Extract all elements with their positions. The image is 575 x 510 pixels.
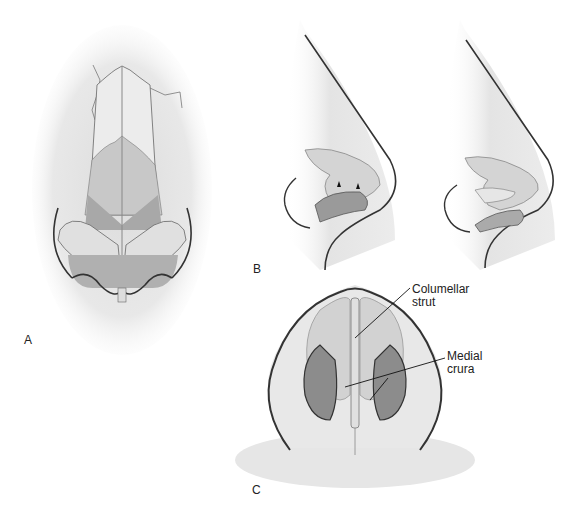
panel-a-drawing bbox=[32, 25, 212, 355]
panel-label-c: C bbox=[252, 483, 261, 497]
annotation-columellar-strut: Columellar strut bbox=[412, 283, 469, 309]
annotation-line2: strut bbox=[412, 296, 469, 309]
panel-label-a: A bbox=[24, 333, 32, 347]
panel-label-b: B bbox=[253, 262, 261, 276]
panel-b-drawing-before bbox=[284, 20, 395, 270]
panel-b-drawing-after bbox=[445, 20, 556, 270]
panel-c-drawing bbox=[235, 285, 475, 488]
annotation-medial-crura: Medial crura bbox=[447, 350, 482, 376]
annotation-line2: crura bbox=[447, 363, 482, 376]
illustration bbox=[0, 0, 575, 510]
